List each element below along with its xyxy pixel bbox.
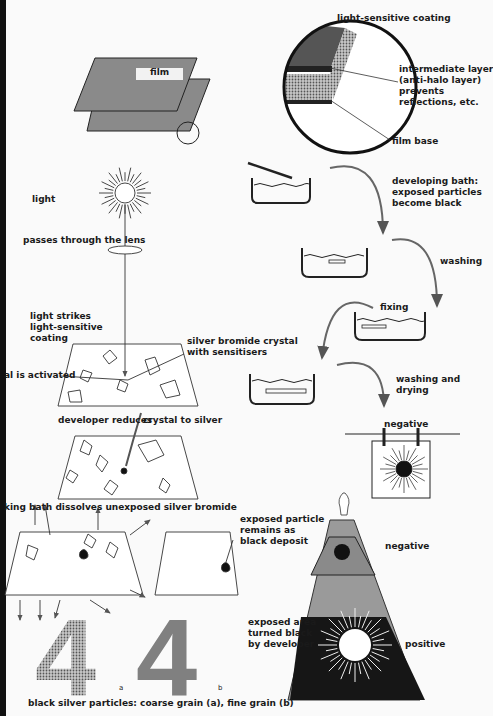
negative-projection-label: negative (385, 541, 429, 552)
developing-label-3: become black (392, 198, 462, 209)
crystal-label-2: with sensitisers (187, 347, 267, 358)
activated-label: al is activated (4, 370, 75, 381)
exposed-area-label-1: exposed area (248, 617, 316, 628)
intermediate-layer-label-3: prevents (399, 86, 444, 97)
light-label: light (32, 194, 55, 205)
strikes-label-1: light strikes (30, 311, 91, 322)
exposed-particle-label-2: remains as (240, 525, 295, 536)
grain-caption: black silver particles: coarse grain (a)… (28, 698, 294, 709)
film-label: film (150, 67, 169, 78)
intermediate-layer-label-1: intermediate layer (399, 64, 493, 75)
developer-reduces-label: developer reduces (58, 415, 152, 426)
film-base-label: film base (392, 136, 438, 147)
positive-label: positive (405, 639, 445, 650)
strikes-label-2: light-sensitive (30, 322, 103, 333)
washing-label: washing (440, 256, 482, 267)
exposed-area-label-2: turned black (248, 628, 312, 639)
hanging-negative (345, 428, 460, 498)
washing-drying-label-1: washing and (396, 374, 460, 385)
crystal-label-1: silver bromide crystal (187, 336, 298, 347)
strikes-label-3: coating (30, 333, 68, 344)
intermediate-layer-label-4: reflections, etc. (399, 97, 479, 108)
exposed-area-label-3: by developer (248, 639, 314, 650)
fixing-label: fixing (380, 302, 408, 313)
coating-label: light-sensitive coating (337, 13, 451, 24)
washing-drying-label-2: drying (396, 385, 429, 396)
fixing-bath-label: king bath dissolves unexposed silver bro… (4, 502, 237, 513)
grain-a-label: a (119, 683, 123, 694)
exposed-particle-label-1: exposed particle (240, 514, 324, 525)
film-sheets (74, 58, 210, 144)
lens-label: passes through the lens (23, 235, 145, 246)
grain-b-label: b (218, 683, 222, 694)
intermediate-layer-label-2: (anti-halo layer) (399, 75, 481, 86)
negative-hanging-label: negative (384, 419, 428, 430)
crystal-to-silver-label: crystal to silver (143, 415, 222, 426)
exposed-particle-label-3: black deposit (240, 536, 308, 547)
developing-label-1: developing bath: (392, 176, 478, 187)
developing-label-2: exposed particles (392, 187, 482, 198)
